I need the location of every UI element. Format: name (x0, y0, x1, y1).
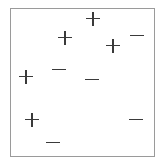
plus-sign-icon (86, 12, 100, 26)
horizontal-stroke (46, 142, 60, 143)
minus-sign-icon (52, 63, 66, 77)
vertical-stroke (92, 12, 93, 26)
minus-sign-icon (129, 113, 143, 127)
vertical-stroke (31, 113, 32, 127)
horizontal-stroke (85, 79, 99, 80)
minus-sign-icon (130, 29, 144, 43)
plus-sign-icon (19, 70, 33, 84)
horizontal-stroke (130, 35, 144, 36)
minus-sign-icon (46, 136, 60, 150)
horizontal-stroke (129, 119, 143, 120)
horizontal-stroke (52, 69, 66, 70)
vertical-stroke (64, 31, 65, 45)
plus-sign-icon (25, 113, 39, 127)
minus-sign-icon (85, 73, 99, 87)
plus-sign-icon (106, 39, 120, 53)
vertical-stroke (25, 70, 26, 84)
plus-sign-icon (58, 31, 72, 45)
vertical-stroke (112, 39, 113, 53)
